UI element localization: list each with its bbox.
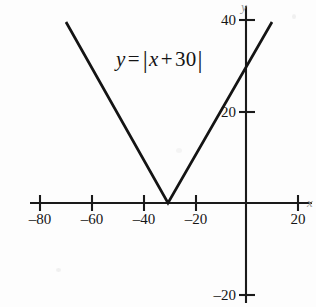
equation-annotation: y=|x+30| [116,44,204,72]
x-tick-label: –20 [185,212,208,227]
y-tick-label: 40 [204,13,236,28]
equation-plus: + [159,47,175,71]
y-axis-label: y [241,0,247,13]
equation-constant: 30 [175,47,197,71]
x-tick-label: –80 [29,212,52,227]
equation-variable: x [149,47,159,71]
equation-lhs: y [116,47,126,71]
equation-open-bar: | [142,46,149,73]
equation-close-bar: | [196,46,203,73]
x-tick-label: –40 [133,212,156,227]
graph-figure: –80 –60 –40 –20 20 40 20 –20 y x y=|x+30… [0,0,316,307]
x-tick-label: –60 [81,212,104,227]
x-axis-label: x [307,196,313,209]
y-tick-label: –20 [198,288,236,303]
x-tick-label: 20 [291,212,306,227]
equation-equals: = [126,47,142,71]
y-tick-label: 20 [204,105,236,120]
